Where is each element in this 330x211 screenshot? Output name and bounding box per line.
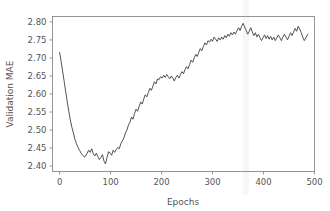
x-tick-label: 500 [306,177,322,187]
y-tick-label: 2.50 [28,125,47,135]
x-tick-label: 0 [57,177,62,187]
y-tick-label: 2.40 [28,161,47,171]
y-tick-label: 2.65 [28,71,47,81]
y-tick-label: 2.70 [28,53,47,63]
validation-mae-line-chart: 2.402.452.502.552.602.652.702.752.80 010… [0,0,330,211]
y-tick-label: 2.55 [28,107,47,117]
x-axis-title: Epochs [167,197,200,207]
y-tick-label: 2.45 [28,143,47,153]
chart-figure: 2.402.452.502.552.602.652.702.752.80 010… [0,0,330,211]
y-tick-label: 2.60 [28,89,47,99]
x-tick-label: 300 [204,177,220,187]
x-tick-label: 200 [153,177,169,187]
y-axis-title: Validation MAE [5,60,15,127]
y-tick-label: 2.80 [28,17,47,27]
y-tick-label: 2.75 [28,35,47,45]
x-tick-label: 400 [255,177,271,187]
x-tick-label: 100 [102,177,118,187]
